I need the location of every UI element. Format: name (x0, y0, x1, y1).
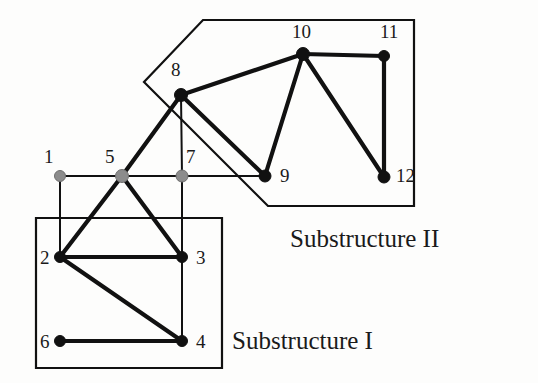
graph-svg (0, 0, 538, 383)
node-label-7: 7 (186, 147, 196, 166)
node-label-3: 3 (196, 248, 206, 267)
node-label-6: 6 (40, 332, 50, 351)
graph-edge-8-10 (181, 54, 303, 95)
graph-node-2[interactable] (55, 252, 66, 263)
region-outlines (36, 20, 414, 368)
graph-node-9[interactable] (259, 170, 271, 182)
node-label-12: 12 (396, 166, 415, 185)
graph-edge-8-7 (181, 95, 182, 176)
graph-node-12[interactable] (378, 171, 390, 183)
node-label-11: 11 (380, 22, 398, 41)
graph-node-3[interactable] (177, 252, 188, 263)
node-label-5: 5 (105, 147, 115, 166)
node-label-1: 1 (44, 147, 54, 166)
graph-edge-10-11 (303, 54, 384, 56)
graph-node-1[interactable] (55, 171, 66, 182)
node-label-9: 9 (280, 166, 290, 185)
node-label-10: 10 (292, 22, 311, 41)
graph-node-10[interactable] (297, 48, 310, 61)
graph-edge-2-4 (60, 257, 182, 341)
graph-edge-10-9 (265, 54, 303, 176)
substructure-2-label: Substructure II (290, 226, 439, 251)
graph-node-11[interactable] (379, 51, 390, 62)
graph-node-8[interactable] (175, 89, 188, 102)
graph-node-7[interactable] (176, 170, 188, 182)
figure-canvas: 123456789101112 Substructure I Substruct… (0, 0, 538, 383)
graph-node-6[interactable] (55, 336, 66, 347)
graph-edge-5-8 (122, 95, 181, 176)
node-label-4: 4 (196, 332, 206, 351)
graph-node-5[interactable] (116, 170, 129, 183)
substructure-1-label: Substructure I (232, 328, 373, 353)
graph-edge-5-2 (60, 176, 122, 257)
node-label-8: 8 (171, 60, 181, 79)
graph-edge-5-3 (122, 176, 182, 257)
graph-edge-10-12 (303, 54, 384, 177)
graph-node-4[interactable] (177, 336, 188, 347)
node-label-2: 2 (40, 248, 50, 267)
